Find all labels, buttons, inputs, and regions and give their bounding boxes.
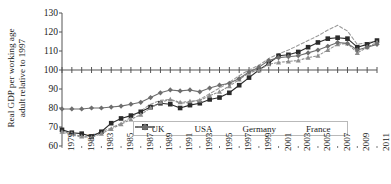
data-point-france [305,50,310,55]
data-point-usa [109,121,114,126]
data-point-usa [247,75,252,80]
data-point-france [109,104,114,109]
data-point-usa [316,40,321,45]
data-point-usa [168,102,173,107]
data-point-france [148,95,153,100]
data-point-usa [207,97,212,102]
x-tick-1991: 1991 [184,133,194,151]
data-point-france [197,89,202,94]
x-tick-1995: 1995 [224,133,234,151]
x-tick-1997: 1997 [243,133,253,151]
data-point-france [99,105,104,110]
data-point-germany [315,53,320,58]
data-point-usa [335,35,340,40]
x-tick-1993: 1993 [204,133,214,151]
data-point-france [325,44,330,49]
data-point-france [315,47,320,52]
x-tick-2005: 2005 [322,133,332,151]
data-point-usa [217,95,222,100]
data-point-usa [178,106,183,111]
x-tick-1987: 1987 [145,133,155,151]
data-point-germany [217,89,222,94]
x-tick-2007: 2007 [342,133,352,151]
data-point-france [128,102,133,107]
data-point-usa [345,36,350,41]
data-point-france [168,87,173,92]
data-point-france [118,104,123,109]
x-tick-1985: 1985 [125,133,135,151]
data-point-france [89,105,94,110]
data-point-usa [306,45,311,50]
data-point-usa [237,83,242,88]
data-point-france [69,106,74,111]
data-point-france [178,88,183,93]
data-point-usa [227,91,232,96]
x-tick-1989: 1989 [164,133,174,151]
x-tick-2003: 2003 [302,133,312,151]
x-tick-1981: 1981 [86,133,96,151]
data-point-france [158,90,163,95]
data-point-france [187,87,192,92]
x-tick-2009: 2009 [361,133,371,151]
data-point-france [138,100,143,105]
x-tick-1979: 1979 [66,133,76,151]
x-tick-2011: 2011 [381,133,391,151]
x-tick-2001: 2001 [283,133,293,151]
data-point-usa [325,36,330,41]
data-point-usa [188,103,193,108]
x-tick-1983: 1983 [105,133,115,151]
legend-swatch-france [134,122,156,132]
x-tick-1999: 1999 [263,133,273,151]
data-point-france [59,106,64,111]
data-point-france [79,106,84,111]
data-point-france [207,85,212,90]
data-point-usa [119,116,124,121]
